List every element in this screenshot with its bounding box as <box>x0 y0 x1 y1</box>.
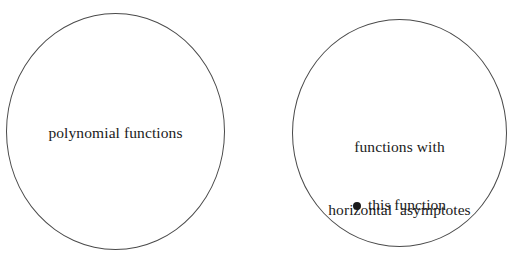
filled-dot-icon <box>353 202 361 210</box>
set-member-label: this function <box>368 195 446 215</box>
set-label-polynomial-functions: polynomial functions <box>6 122 225 143</box>
diagram-canvas: polynomial functions functions with hori… <box>0 0 515 263</box>
set-label-horizontal-asymptotes: functions with horizontal asymptotes <box>292 94 507 262</box>
set-member-this-function: this function <box>292 195 507 215</box>
set-label-line-1: functions with <box>292 136 507 157</box>
